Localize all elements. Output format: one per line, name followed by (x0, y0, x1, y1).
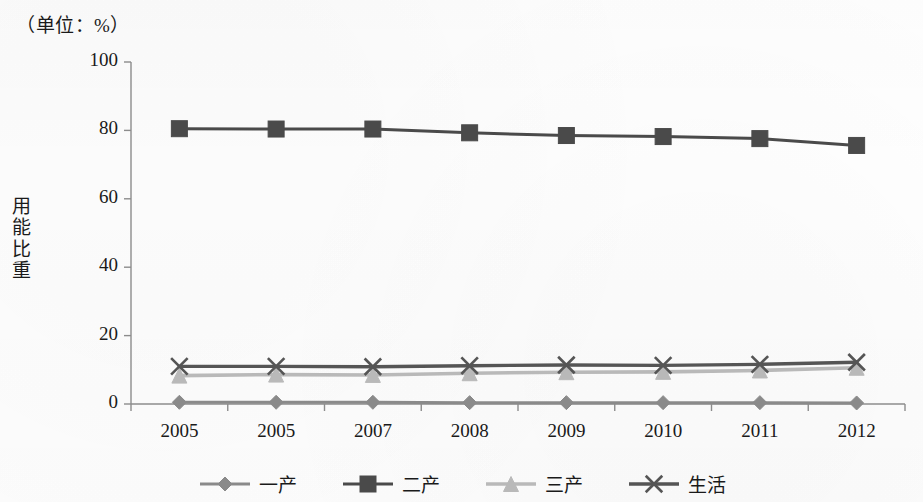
x-tick-label: 2008 (425, 420, 515, 442)
data-point-diamond (463, 396, 477, 410)
data-point-diamond (850, 396, 864, 410)
x-tick-label: 2007 (328, 420, 418, 442)
chart-legend: 一产二产三产生活 (0, 470, 923, 497)
y-tick-label: 20 (66, 323, 118, 345)
y-tick-label: 60 (66, 186, 118, 208)
axis-layer (124, 62, 905, 411)
data-point-square (365, 121, 381, 137)
data-point-diamond (269, 395, 283, 409)
series-1 (171, 121, 864, 154)
x-tick-label: 2011 (715, 420, 805, 442)
data-point-square (752, 131, 768, 147)
legend-marker-triangle-icon (484, 473, 538, 495)
data-point-square (655, 129, 671, 145)
legend-label: 三产 (545, 470, 583, 497)
data-point-diamond (656, 396, 670, 410)
data-point-diamond (753, 396, 767, 410)
data-point-square (268, 121, 284, 137)
x-tick-label: 2005 (231, 420, 321, 442)
legend-marker-cross-icon (627, 473, 681, 495)
y-tick-label: 0 (66, 391, 118, 413)
legend-label: 一产 (259, 470, 297, 497)
legend-label: 二产 (402, 470, 440, 497)
data-point-diamond (559, 396, 573, 410)
x-tick-label: 2010 (618, 420, 708, 442)
series-layer (171, 121, 865, 410)
y-tick-label: 80 (66, 117, 118, 139)
data-point-square (558, 128, 574, 144)
data-point-square (462, 125, 478, 141)
legend-label: 生活 (688, 470, 726, 497)
data-point-diamond (218, 477, 232, 491)
y-tick-label: 100 (66, 49, 118, 71)
x-tick-label: 2009 (521, 420, 611, 442)
legend-item-二产[interactable]: 二产 (341, 470, 440, 497)
legend-item-一产[interactable]: 一产 (198, 470, 297, 497)
legend-marker-square-icon (341, 473, 395, 495)
legend-item-三产[interactable]: 三产 (484, 470, 583, 497)
data-point-diamond (172, 395, 186, 409)
legend-item-生活[interactable]: 生活 (627, 470, 726, 497)
data-point-diamond (366, 395, 380, 409)
data-point-square (171, 121, 187, 137)
data-point-square (360, 476, 376, 492)
legend-marker-diamond-icon (198, 473, 252, 495)
x-tick-label: 2005 (134, 420, 224, 442)
y-tick-label: 40 (66, 254, 118, 276)
x-tick-label: 2012 (812, 420, 902, 442)
data-point-square (849, 137, 865, 153)
line-chart-figure: （单位：%） 用 能 比 重 020406080100 200520052007… (0, 0, 923, 502)
